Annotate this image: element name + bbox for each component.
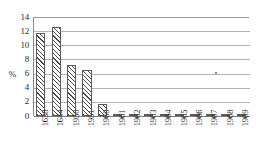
x-axis-tick-labels: 1638164419501951196019611962196319641965…	[33, 117, 249, 167]
bar-slot	[190, 17, 199, 116]
bar-chart: % 02468101214 16381644195019511960196119…	[0, 0, 256, 167]
y-axis-tick: 6	[25, 69, 29, 78]
x-axis-tick-slot: 1962	[126, 117, 141, 167]
x-axis-tick-slot: 1966	[187, 117, 202, 167]
x-axis-tick-slot: 1963	[141, 117, 156, 167]
x-axis-tick-slot: 1969	[234, 117, 249, 167]
bar-slot	[206, 17, 215, 116]
x-axis-tick-slot: 1638	[33, 117, 48, 167]
x-axis-tick-slot: 1964	[156, 117, 171, 167]
y-axis-tick: 2	[25, 97, 29, 106]
bar-slot	[67, 17, 76, 116]
bar	[52, 27, 61, 116]
y-axis-tick: 12	[20, 27, 29, 36]
bar-slot	[160, 17, 169, 116]
x-axis-tick: 1969	[241, 110, 250, 127]
bar-series	[33, 17, 249, 116]
x-axis-tick-slot: 1967	[203, 117, 218, 167]
x-axis-tick-slot: 1950	[64, 117, 79, 167]
y-axis-tick-labels: 02468101214	[0, 0, 31, 167]
y-axis-tick: 4	[25, 83, 29, 92]
bar-slot	[52, 17, 61, 116]
x-axis-tick-slot: 1960	[95, 117, 110, 167]
scan-artifact-speck	[215, 72, 217, 74]
bar-slot	[129, 17, 138, 116]
bar-slot	[221, 17, 230, 116]
x-axis-tick-slot: 1965	[172, 117, 187, 167]
y-axis-tick: 10	[20, 41, 29, 50]
y-axis-tick: 14	[20, 13, 29, 22]
y-axis-tick: 8	[25, 55, 29, 64]
x-axis-tick-slot: 1968	[218, 117, 233, 167]
bar-slot	[82, 17, 91, 116]
x-axis-tick-slot: 1644	[48, 117, 63, 167]
bar	[36, 33, 45, 116]
bar-slot	[113, 17, 122, 116]
bar-slot	[175, 17, 184, 116]
y-axis-tick: 0	[25, 112, 29, 121]
bar-slot	[98, 17, 107, 116]
x-axis-tick-slot: 1951	[79, 117, 94, 167]
bar-slot	[144, 17, 153, 116]
bar-slot	[237, 17, 246, 116]
bar	[67, 65, 76, 116]
bar-slot	[36, 17, 45, 116]
x-axis-tick-slot: 1961	[110, 117, 125, 167]
